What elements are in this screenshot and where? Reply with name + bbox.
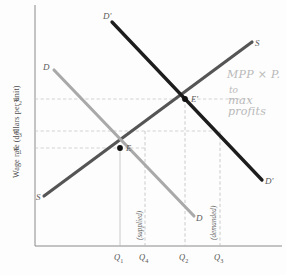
curve-label-d-prime-top: D' — [103, 11, 111, 21]
equilibrium-point-E-prime — [182, 96, 188, 102]
curve-label-s-top: S — [255, 38, 260, 48]
annotation-supplied: (supplied) — [136, 211, 144, 240]
curve-label-d-bottom: D — [196, 213, 203, 223]
y-tick-w1: w1 — [13, 143, 22, 155]
handwritten-note-line4: profits — [228, 105, 266, 118]
handwritten-note-line1: MPP × P. — [227, 68, 280, 81]
axes — [35, 5, 282, 246]
supply-curve — [44, 42, 252, 196]
curve-label-s-bottom: S — [36, 192, 41, 202]
curve-label-d-top: D — [43, 62, 50, 72]
x-tick-q4: Q4 — [139, 252, 148, 264]
curve-label-d-prime-bottom: D' — [265, 176, 273, 186]
point-label-e-prime: E' — [191, 94, 198, 104]
x-tick-q2: Q2 — [179, 252, 188, 264]
point-label-e: E — [126, 143, 131, 153]
chart-canvas: Wage rate (dollars per unit) — [0, 0, 286, 275]
y-tick-w2: w2 — [13, 94, 22, 106]
x-tick-q1: Q1 — [114, 252, 123, 264]
annotation-demanded: (demanded) — [210, 206, 218, 240]
y-tick-w3: w3 — [13, 126, 22, 138]
equilibrium-point-E — [117, 145, 123, 151]
demand-curve — [54, 70, 194, 216]
x-tick-q3: Q3 — [214, 252, 223, 264]
